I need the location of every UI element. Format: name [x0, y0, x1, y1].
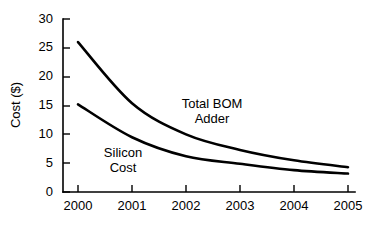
- cost-trend-line-chart: Cost ($) 0 5 10 15 20 25 30 2000 2001 20…: [0, 0, 376, 228]
- y-tick-label-30: 30: [39, 11, 53, 26]
- y-tick-label-20: 20: [39, 68, 53, 83]
- annotation-total-bom-adder-line2: Adder: [195, 111, 230, 126]
- x-tick-label-2003: 2003: [226, 198, 255, 213]
- annotation-total-bom-adder-line1: Total BOM: [182, 96, 243, 111]
- x-tick-label-2001: 2001: [118, 198, 147, 213]
- chart-canvas: Cost ($) 0 5 10 15 20 25 30 2000 2001 20…: [0, 0, 376, 228]
- annotation-silicon-cost-line1: Silicon: [104, 145, 142, 160]
- y-tick-label-5: 5: [46, 155, 53, 170]
- y-tick-label-25: 25: [39, 39, 53, 54]
- x-tick-label-2004: 2004: [280, 198, 309, 213]
- x-tick-label-2000: 2000: [64, 198, 93, 213]
- y-tick-label-0: 0: [46, 184, 53, 199]
- y-tick-label-15: 15: [39, 97, 53, 112]
- y-tick-label-10: 10: [39, 126, 53, 141]
- y-axis-title: Cost ($): [8, 82, 23, 128]
- x-tick-label-2002: 2002: [172, 198, 201, 213]
- x-tick-label-2005: 2005: [334, 198, 363, 213]
- annotation-silicon-cost-line2: Cost: [110, 160, 137, 175]
